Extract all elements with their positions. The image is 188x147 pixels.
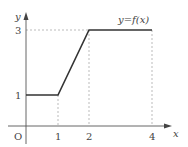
function-label: y=f(x) xyxy=(117,14,149,25)
y-tick-1: 1 xyxy=(15,90,21,101)
y-axis-label: y xyxy=(14,11,21,22)
x-axis-arrow-icon xyxy=(164,124,172,129)
x-tick-4: 4 xyxy=(149,131,155,142)
guide-lines xyxy=(26,30,152,126)
axes xyxy=(8,16,168,144)
y-tick-3: 3 xyxy=(15,25,21,36)
origin-label: O xyxy=(14,131,22,142)
x-axis-label: x xyxy=(173,128,179,139)
x-tick-2: 2 xyxy=(86,131,92,142)
y-axis-arrow-icon xyxy=(24,12,29,20)
x-tick-1: 1 xyxy=(55,131,61,142)
function-graph: y=f(x) y x O 1 2 4 1 3 xyxy=(0,0,188,147)
